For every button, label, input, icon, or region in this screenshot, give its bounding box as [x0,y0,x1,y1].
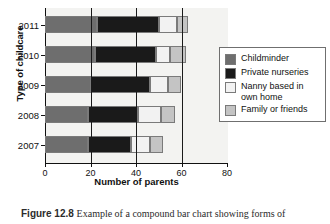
bar-segment [45,136,88,153]
y-tick [41,145,45,146]
y-tick-label-2009: 2009 [18,79,39,90]
legend-item-family-or-friends: Family or friends [225,104,321,116]
bar-segment [156,46,170,63]
legend-item-private-nurseries: Private nurseries [225,67,321,79]
legend-item-nanny-own-home: Nanny based in own home [225,81,321,102]
bar-segment [150,76,168,93]
bar-segment [45,16,97,33]
y-tick-label-2011: 2011 [19,19,39,30]
bar-segment [159,16,177,33]
legend-label: Private nurseries [241,67,309,78]
legend-swatch-icon [225,54,236,65]
x-axis-title: Number of parents [45,176,228,187]
gridline-40 [136,8,137,163]
y-tick [41,25,45,26]
bar-segment [88,136,131,153]
legend: Childminder Private nurseries Nanny base… [219,47,326,122]
bar-segment [91,76,150,93]
bar-segment [138,106,161,123]
legend-swatch-icon [225,105,236,116]
x-tick [227,163,228,167]
bar-segment [95,46,156,63]
bar-segment [45,76,91,93]
y-tick-label-2010: 2010 [18,49,39,60]
bar-segment [88,106,138,123]
bar-segment [150,136,164,153]
bar-segment [45,106,88,123]
legend-label: Childminder [241,53,289,64]
y-tick-label-2007: 2007 [18,139,39,150]
gridline-60 [182,8,183,163]
bar-segment [161,106,175,123]
gridline-20 [91,8,92,163]
x-tick [136,163,137,167]
y-tick-label-2008: 2008 [18,109,39,120]
legend-label: Nanny based in own home [241,81,321,102]
legend-swatch-icon [225,82,236,93]
figure-caption-strip: Figure 12.8 Example of a compound bar ch… [0,205,330,224]
plot-area: 0 20 40 60 80 2011 2010 2009 2008 2007 [45,8,228,163]
bar-segment [45,46,95,63]
bar-chart-figure: Type of childcare 0 20 40 60 80 201 [0,0,330,205]
legend-item-childminder: Childminder [225,53,321,65]
legend-swatch-icon [225,68,236,79]
y-tick [41,115,45,116]
figure-caption: Figure 12.8 Example of a compound bar ch… [21,208,321,219]
x-tick [91,163,92,167]
legend-label: Family or friends [241,104,308,115]
bar-segment [168,76,182,93]
bar-segment [131,136,149,153]
x-tick [45,163,46,167]
y-tick [41,55,45,56]
bar-segment [97,16,158,33]
bar-segment [170,46,186,63]
x-tick [182,163,183,167]
y-tick [41,85,45,86]
